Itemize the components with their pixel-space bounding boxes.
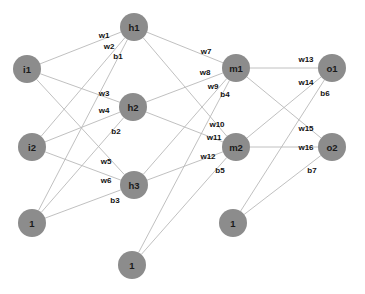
node-b_m[interactable]: 1	[219, 209, 247, 237]
edge-label-b5: b5	[215, 166, 225, 175]
edges-group	[36, 32, 324, 254]
edge-label-b4: b4	[220, 90, 230, 99]
node-label-b_h: 1	[129, 260, 135, 271]
edge-label-w7: w7	[200, 47, 212, 56]
node-label-h2: h2	[127, 102, 138, 113]
node-label-i2: i2	[28, 142, 36, 153]
node-h3[interactable]: h3	[120, 171, 148, 199]
edge-i2-to-h2	[45, 112, 120, 142]
edge-label-w4: w4	[98, 106, 110, 115]
edge-label-w5: w5	[100, 157, 112, 166]
node-i1[interactable]: i1	[13, 55, 41, 83]
edge-label-w9: w9	[207, 82, 219, 91]
edge-b_m-to-o2	[244, 156, 321, 215]
node-label-m2: m2	[229, 142, 243, 153]
edge-label-w14: w14	[297, 78, 314, 87]
edge-b_in-to-h1	[38, 39, 127, 210]
edge-label-b6: b6	[320, 89, 330, 98]
edge-h1-to-m1	[147, 32, 223, 63]
node-label-b_m: 1	[230, 218, 236, 229]
edge-label-w16: w16	[297, 143, 314, 152]
edge-label-w3: w3	[98, 89, 110, 98]
edge-label-w10: w10	[208, 120, 225, 129]
node-m2[interactable]: m2	[222, 133, 250, 161]
edge-b_h-to-m2	[141, 158, 226, 255]
node-o1[interactable]: o1	[318, 54, 346, 82]
node-label-h3: h3	[128, 180, 139, 191]
edge-label-w2: w2	[103, 42, 115, 51]
node-i2[interactable]: i2	[18, 133, 46, 161]
node-o2[interactable]: o2	[318, 133, 346, 161]
edge-label-b3: b3	[110, 196, 120, 205]
edge-label-b1: b1	[113, 52, 123, 61]
edge-label-w12: w12	[199, 152, 216, 161]
node-label-h1: h1	[128, 22, 140, 33]
edge-label-b7: b7	[307, 166, 317, 175]
node-h1[interactable]: h1	[120, 13, 148, 41]
edge-label-w15: w15	[297, 124, 314, 133]
edge-label-b2: b2	[111, 127, 121, 136]
node-label-m1: m1	[229, 63, 243, 74]
network-canvas: i1i21h1h2h31m1m21o1o2 w1w2b1w3w4b2w5w6b3…	[0, 0, 365, 294]
edge-label-w6: w6	[100, 176, 112, 185]
edge-label-w8: w8	[199, 68, 211, 77]
node-label-o1: o1	[326, 63, 338, 74]
node-m1[interactable]: m1	[222, 54, 250, 82]
node-b_in[interactable]: 1	[18, 209, 46, 237]
node-label-b_in: 1	[29, 218, 35, 229]
node-label-o2: o2	[326, 142, 337, 153]
edge-label-w1: w1	[98, 31, 110, 40]
neural-network-diagram: i1i21h1h2h31m1m21o1o2 w1w2b1w3w4b2w5w6b3…	[0, 0, 365, 294]
edge-label-w11: w11	[206, 133, 222, 142]
node-label-i1: i1	[23, 64, 32, 75]
nodes-group: i1i21h1h2h31m1m21o1o2	[13, 13, 346, 279]
node-b_h[interactable]: 1	[118, 251, 146, 279]
edge-label-w13: w13	[297, 55, 314, 64]
node-h2[interactable]: h2	[119, 93, 147, 121]
